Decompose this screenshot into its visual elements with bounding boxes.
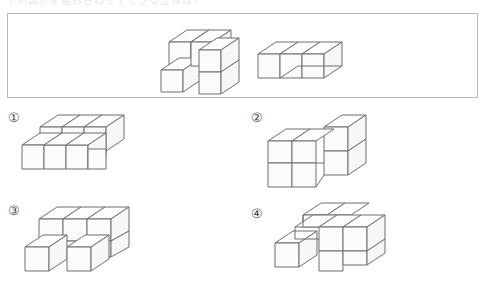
header-text-fragment: 下列図形を組み合わせてできる立体は？ <box>6 0 306 6</box>
option-1-figure <box>18 105 138 187</box>
option-3[interactable]: ③ <box>0 195 240 289</box>
question-page: 下列図形を組み合わせてできる立体は？ <box>0 0 488 289</box>
option-4-label: ④ <box>251 207 263 220</box>
option-4-figure <box>275 197 405 287</box>
option-3-figure <box>25 195 150 287</box>
prompt-figure-2 <box>256 34 366 92</box>
option-2-figure <box>262 105 392 195</box>
prompt-figure-1 <box>147 20 257 96</box>
option-2[interactable]: ② <box>240 105 488 195</box>
option-4[interactable]: ④ <box>240 195 488 289</box>
prompt-box <box>7 13 478 98</box>
option-1[interactable]: ① <box>0 105 240 190</box>
option-3-label: ③ <box>8 204 20 217</box>
